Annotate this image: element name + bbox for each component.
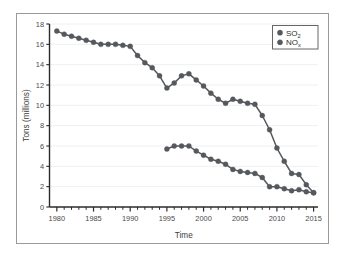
x-tick-label: 1990 — [122, 214, 138, 223]
data-point-marker — [91, 40, 96, 45]
data-point-marker — [186, 71, 191, 76]
data-point-marker — [216, 97, 221, 102]
data-point-marker — [282, 186, 287, 191]
y-tick-label: 0 — [40, 203, 44, 212]
x-tick-label: 2015 — [305, 214, 321, 223]
data-point-marker — [260, 175, 265, 180]
data-point-marker — [69, 34, 74, 39]
data-point-marker — [296, 187, 301, 192]
data-point-marker — [62, 32, 67, 37]
data-point-marker — [289, 171, 294, 176]
data-point-marker — [252, 171, 257, 176]
data-point-marker — [223, 162, 228, 167]
data-point-marker — [106, 42, 111, 47]
data-point-marker — [245, 101, 250, 106]
data-point-marker — [238, 99, 243, 104]
series-so2 — [54, 29, 316, 196]
y-tick-label: 4 — [40, 162, 44, 171]
emissions-line-chart: 024681012141618 198019851990199520002005… — [0, 0, 348, 266]
y-tick-label: 6 — [40, 142, 44, 151]
series-nox — [164, 144, 316, 196]
data-point-marker — [157, 73, 162, 78]
data-point-marker — [282, 159, 287, 164]
chart-legend: SO2NOx — [273, 26, 319, 50]
data-point-marker — [223, 101, 228, 106]
x-tick-label: 1980 — [49, 214, 65, 223]
y-tick-label: 2 — [40, 182, 44, 191]
data-point-marker — [172, 144, 177, 149]
series-layer — [54, 29, 316, 196]
data-point-marker — [238, 169, 243, 174]
x-tick-label: 1995 — [159, 214, 175, 223]
data-point-marker — [216, 159, 221, 164]
x-tick-label: 2000 — [195, 214, 211, 223]
data-point-marker — [260, 113, 265, 118]
data-point-marker — [98, 42, 103, 47]
axis-lines — [50, 24, 319, 207]
legend-subscript: 2 — [298, 33, 301, 39]
data-point-marker — [164, 147, 169, 152]
data-point-marker — [194, 149, 199, 154]
data-point-marker — [230, 97, 235, 102]
y-axis-title: Tons (millions) — [22, 89, 31, 142]
legend-marker-nox[interactable] — [277, 40, 282, 45]
data-point-marker — [142, 60, 147, 65]
x-tick-label: 1985 — [85, 214, 101, 223]
data-point-marker — [194, 77, 199, 82]
data-point-marker — [172, 80, 177, 85]
data-point-marker — [84, 38, 89, 43]
x-axis-title: Time — [175, 231, 193, 240]
data-point-marker — [201, 153, 206, 158]
data-point-marker — [179, 73, 184, 78]
y-axis-ticks: 024681012141618 — [36, 20, 50, 212]
data-point-marker — [113, 42, 118, 47]
y-tick-label: 14 — [36, 60, 44, 69]
data-point-marker — [135, 53, 140, 58]
x-axis-ticks: 19801985199019952000200520102015 — [49, 207, 322, 223]
data-point-marker — [274, 184, 279, 189]
data-point-marker — [54, 29, 59, 34]
data-point-marker — [289, 188, 294, 193]
data-point-marker — [120, 43, 125, 48]
data-point-marker — [76, 36, 81, 41]
data-point-marker — [186, 144, 191, 149]
data-point-marker — [304, 182, 309, 187]
legend-subscript: x — [298, 42, 301, 48]
x-tick-label: 2010 — [269, 214, 285, 223]
data-point-marker — [311, 190, 316, 195]
y-tick-label: 12 — [36, 81, 44, 90]
data-point-marker — [245, 170, 250, 175]
data-point-marker — [304, 189, 309, 194]
data-point-marker — [179, 144, 184, 149]
data-point-marker — [296, 172, 301, 177]
data-point-marker — [208, 91, 213, 96]
data-point-marker — [267, 184, 272, 189]
data-point-marker — [267, 127, 272, 132]
data-point-marker — [128, 44, 133, 49]
data-point-marker — [201, 84, 206, 89]
y-tick-label: 16 — [36, 40, 44, 49]
data-point-marker — [274, 146, 279, 151]
series-line — [57, 31, 314, 193]
data-point-marker — [208, 157, 213, 162]
y-tick-label: 8 — [40, 121, 44, 130]
x-tick-label: 2005 — [232, 214, 248, 223]
chart-screenshot: 024681012141618 198019851990199520002005… — [0, 0, 348, 266]
legend-marker-so2[interactable] — [277, 30, 282, 35]
data-point-marker — [150, 65, 155, 70]
y-tick-label: 18 — [36, 20, 44, 29]
y-tick-label: 10 — [36, 101, 44, 110]
data-point-marker — [230, 167, 235, 172]
data-point-marker — [164, 86, 169, 91]
data-point-marker — [252, 102, 257, 107]
